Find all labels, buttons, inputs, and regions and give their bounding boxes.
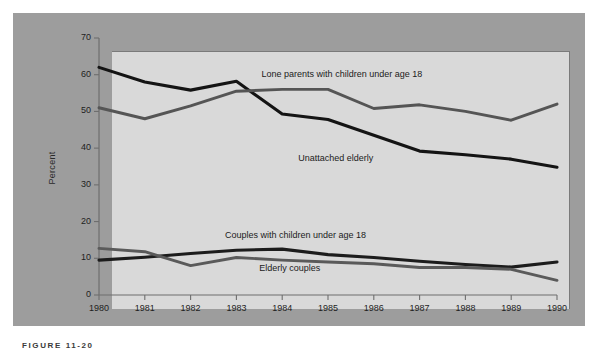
x-axis-tick-label: 1990 — [537, 303, 577, 313]
x-axis-tick-label: 1982 — [171, 303, 211, 313]
series-line — [99, 89, 557, 120]
x-axis-tick-label: 1988 — [445, 303, 485, 313]
y-axis-tick-label: 40 — [65, 142, 91, 152]
y-axis-tick-label: 20 — [65, 216, 91, 226]
x-axis-tick-label: 1980 — [79, 303, 119, 313]
x-axis-tick-label: 1983 — [216, 303, 256, 313]
y-axis-tick-label: 0 — [65, 289, 91, 299]
figure-caption: FIGURE 11-20 — [22, 341, 94, 350]
y-axis-tick-label: 30 — [65, 179, 91, 189]
series-annotation: Unattached elderly — [298, 153, 373, 163]
x-axis-tick-label: 1984 — [262, 303, 302, 313]
y-axis-tick-label: 60 — [65, 69, 91, 79]
figure-panel: Percent 01020304050607019801981198219831… — [13, 13, 585, 326]
series-annotation: Couples with children under age 18 — [225, 230, 366, 240]
series-annotation: Elderly couples — [259, 263, 320, 273]
x-axis-tick-label: 1985 — [308, 303, 348, 313]
x-axis-tick-label: 1981 — [125, 303, 165, 313]
figure-root: Percent 01020304050607019801981198219831… — [0, 0, 611, 353]
series-annotation: Lone parents with children under age 18 — [262, 69, 423, 79]
x-axis-tick-label: 1986 — [354, 303, 394, 313]
x-axis-tick-label: 1987 — [400, 303, 440, 313]
y-axis-tick-label: 70 — [65, 32, 91, 42]
x-axis-tick-label: 1989 — [491, 303, 531, 313]
line-chart — [13, 13, 611, 353]
y-axis-tick-label: 50 — [65, 105, 91, 115]
y-axis-tick-label: 10 — [65, 252, 91, 262]
